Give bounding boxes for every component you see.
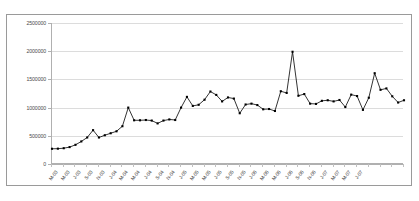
x-axis-tick-label: S-06 xyxy=(294,169,305,181)
x-axis-tick-mark xyxy=(344,164,345,167)
x-axis-tick-label: M-05 xyxy=(188,169,200,181)
data-point xyxy=(57,148,59,150)
x-axis-tick-mark xyxy=(86,164,87,167)
x-axis-tick-mark xyxy=(157,164,158,167)
x-axis-tick-mark xyxy=(51,164,52,167)
x-axis-tick-mark xyxy=(227,164,228,167)
x-axis-tick-label: N-05 xyxy=(235,169,246,181)
data-point xyxy=(362,109,364,111)
x-axis-tick-mark xyxy=(168,164,169,167)
x-axis-tick-label: J-06 xyxy=(283,169,293,180)
data-point xyxy=(115,130,117,132)
x-axis-tick-mark xyxy=(110,164,111,167)
plot-area xyxy=(51,23,403,164)
x-axis-tick-label: S-04 xyxy=(153,169,164,181)
data-point xyxy=(309,103,311,105)
x-axis-tick-mark xyxy=(63,164,64,167)
data-point xyxy=(403,99,405,101)
x-axis-tick-label: M-07 xyxy=(341,169,353,181)
x-axis-tick-label: M-05 xyxy=(200,169,212,181)
data-point xyxy=(280,90,282,92)
data-point xyxy=(215,94,217,96)
data-point xyxy=(391,95,393,97)
data-point xyxy=(63,147,65,149)
data-point xyxy=(198,104,200,106)
data-point xyxy=(327,99,329,101)
y-axis-tick-label: 1000000 xyxy=(27,105,47,111)
data-point xyxy=(350,94,352,96)
data-point xyxy=(344,106,346,108)
chart-frame: 05000001000000150000020000002500000 M-03… xyxy=(6,14,412,186)
x-axis-tick-mark xyxy=(133,164,134,167)
x-axis-tick-label: N-06 xyxy=(306,169,317,181)
data-point xyxy=(233,98,235,100)
x-axis-tick-label: M-04 xyxy=(129,169,141,181)
data-point xyxy=(209,90,211,92)
x-axis-tick-mark xyxy=(286,164,287,167)
line-series xyxy=(52,23,404,164)
data-point xyxy=(250,103,252,105)
x-axis-tick-label: J-03 xyxy=(72,169,82,180)
x-axis-tick-label: M-06 xyxy=(258,169,270,181)
y-axis-tick-label: 1500000 xyxy=(27,76,47,82)
x-axis-tick-label: M-07 xyxy=(329,169,341,181)
data-point xyxy=(286,92,288,94)
data-point xyxy=(80,140,82,142)
data-point xyxy=(51,148,53,150)
data-point xyxy=(121,125,123,127)
x-axis-tick-label: J-07 xyxy=(318,169,328,180)
y-axis-tick-label: 2000000 xyxy=(27,48,47,54)
y-axis-tick-label: 500000 xyxy=(29,133,46,139)
data-point xyxy=(338,99,340,101)
cut-off-text-below xyxy=(0,190,419,201)
plot-wrapper: 05000001000000150000020000002500000 M-03… xyxy=(7,15,413,187)
x-axis-tick-mark xyxy=(121,164,122,167)
data-point xyxy=(186,96,188,98)
x-axis-tick-label: J-05 xyxy=(177,169,187,180)
data-point xyxy=(192,105,194,107)
data-point xyxy=(315,103,317,105)
data-point xyxy=(74,144,76,146)
x-axis-tick-label: S-03 xyxy=(83,169,94,181)
data-point xyxy=(397,101,399,103)
x-axis-tick-mark xyxy=(380,164,381,167)
data-point xyxy=(356,95,358,97)
x-axis-tick-mark xyxy=(145,164,146,167)
y-axis: 05000001000000150000020000002500000 xyxy=(7,15,51,164)
data-point xyxy=(274,110,276,112)
data-point xyxy=(151,120,153,122)
data-point xyxy=(368,97,370,99)
x-axis-tick-mark xyxy=(215,164,216,167)
x-axis-tick-label: N-04 xyxy=(165,169,176,181)
data-point xyxy=(245,103,247,105)
x-axis-tick-mark xyxy=(192,164,193,167)
x-axis-tick-label: N-03 xyxy=(94,169,105,181)
data-point xyxy=(92,129,94,131)
x-axis-tick-mark xyxy=(333,164,334,167)
x-axis-tick-label: S-05 xyxy=(224,169,235,181)
x-axis-tick-mark xyxy=(250,164,251,167)
data-point xyxy=(69,146,71,148)
x-axis-tick-mark xyxy=(180,164,181,167)
data-point xyxy=(139,119,141,121)
data-point xyxy=(385,87,387,89)
x-axis-tick-label: M-06 xyxy=(270,169,282,181)
data-point xyxy=(157,122,159,124)
x-axis-tick-mark xyxy=(321,164,322,167)
x-axis-tick-mark xyxy=(356,164,357,167)
x-axis-tick-mark xyxy=(262,164,263,167)
x-axis-tick-mark xyxy=(309,164,310,167)
x-axis-tick-label: M-03 xyxy=(47,169,59,181)
data-point xyxy=(127,107,129,109)
x-axis-tick-mark xyxy=(204,164,205,167)
data-point xyxy=(162,120,164,122)
x-axis-tick-label: J-04 xyxy=(142,169,152,180)
data-point xyxy=(221,100,223,102)
data-point xyxy=(203,99,205,101)
data-point xyxy=(104,134,106,136)
x-axis-tick-mark xyxy=(274,164,275,167)
data-point xyxy=(98,136,100,138)
data-point xyxy=(321,100,323,102)
chart-page: 05000001000000150000020000002500000 M-03… xyxy=(0,0,419,201)
x-axis-tick-label: M-03 xyxy=(59,169,71,181)
